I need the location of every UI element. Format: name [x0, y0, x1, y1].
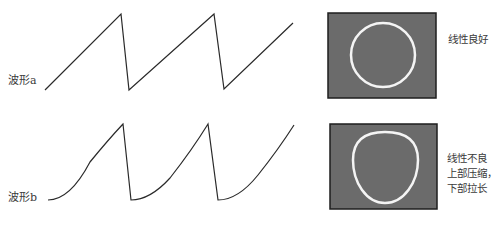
screen-a — [328, 13, 436, 98]
screen-a-note-line: 线性良好 — [448, 32, 488, 47]
waveform-a-line — [45, 14, 293, 90]
waveform-b-line — [48, 124, 294, 200]
waveform-b-label: 波形b — [8, 191, 37, 204]
screen-b-note-line: 上部压缩， — [447, 166, 497, 181]
waveform-a-label: 波形a — [8, 74, 37, 87]
screen-b-note-line: 线性不良 — [447, 151, 497, 166]
screen-b-note: 线性不良 上部压缩， 下部拉长 — [447, 151, 497, 196]
diagram-canvas — [0, 0, 498, 225]
screen-b — [330, 124, 437, 209]
screen-b-note-line: 下部拉长 — [447, 181, 497, 196]
screen-a-note: 线性良好 — [448, 32, 488, 47]
